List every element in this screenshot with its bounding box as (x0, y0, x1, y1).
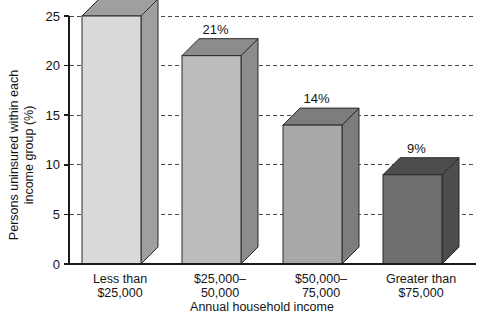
y-tick-label: 10 (46, 157, 60, 172)
bar-front-face (182, 56, 241, 264)
bar-side-face (442, 158, 459, 264)
bar-side-face (342, 108, 359, 264)
category-label-line: $25,000 (97, 286, 142, 300)
x-axis-title: Annual household income (190, 300, 334, 314)
category-label-line: $50,000– (295, 272, 347, 286)
bar-group (283, 108, 359, 264)
bar-front-face (383, 175, 442, 264)
bar-chart: 0510152025 25%21%14%9% Less than$25,000$… (0, 0, 492, 329)
y-axis-title-line-1: Persons uninsured within each (7, 70, 21, 240)
bar-front-face (283, 125, 342, 264)
bar-side-face (141, 0, 158, 264)
category-label-line: Less than (93, 272, 147, 286)
y-tick-label: 20 (46, 58, 60, 73)
bar-value-label: 9% (407, 141, 426, 156)
category-label-line: Greater than (386, 272, 456, 286)
category-label-line: $75,000 (398, 286, 443, 300)
y-tick-label: 0 (53, 257, 60, 272)
y-tick-label: 15 (46, 108, 60, 123)
bar-front-face (82, 16, 141, 264)
bar-group (182, 39, 258, 264)
y-tick-label: 25 (46, 9, 60, 24)
chart-container: 0510152025 25%21%14%9% Less than$25,000$… (0, 0, 492, 329)
category-label-line: 50,000 (201, 286, 239, 300)
category-label-line: 75,000 (302, 286, 340, 300)
category-label-line: $25,000– (194, 272, 246, 286)
bar-side-face (241, 39, 258, 264)
bar-group (82, 0, 158, 264)
y-tick-label: 5 (53, 207, 60, 222)
bar-value-label: 21% (202, 22, 228, 37)
y-axis-title-line-2: income group (%) (22, 106, 36, 205)
bar-value-label: 14% (303, 91, 329, 106)
bar-group (383, 158, 459, 264)
